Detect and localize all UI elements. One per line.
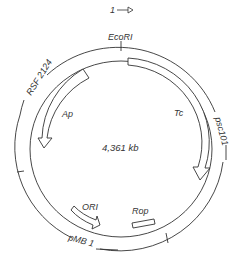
direction-label: 1 bbox=[110, 5, 115, 15]
site-label-ecori: EcoRI bbox=[108, 32, 133, 42]
pmb1-leader bbox=[96, 249, 118, 250]
segment-label-pmb1: pMB 1 bbox=[67, 232, 96, 249]
gene-label-ori: ORI bbox=[82, 202, 99, 212]
plasmid-map: 1 EcoRI RSF 2124 psc101 pMB 1 Ap Tc 4,36… bbox=[0, 0, 237, 264]
tick-bottom-right bbox=[166, 233, 168, 243]
plasmid-size-label: 4,361 kb bbox=[102, 142, 138, 153]
gene-rop-box-icon bbox=[132, 219, 155, 228]
direction-arrow-icon bbox=[117, 7, 133, 13]
gene-label-rop: Rop bbox=[132, 206, 149, 216]
gene-label-tc: Tc bbox=[174, 108, 184, 118]
segment-label-psc101: psc101 bbox=[213, 115, 230, 147]
segment-label-rsf2124: RSF 2124 bbox=[24, 58, 54, 98]
gene-tc-arrow-icon bbox=[128, 58, 210, 180]
gene-label-ap: Ap bbox=[61, 109, 73, 119]
